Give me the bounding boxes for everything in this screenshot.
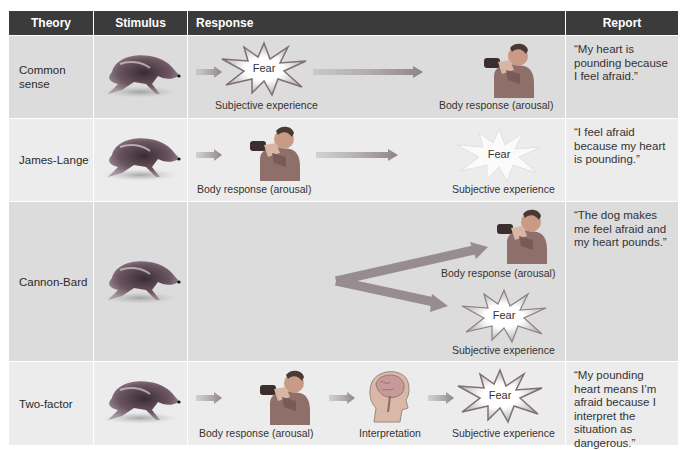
step-label: Body response (arousal) <box>199 427 313 439</box>
step-label: Body response (arousal) <box>441 267 555 279</box>
row-two-factor-stimulus <box>94 362 187 445</box>
arrow-icon <box>196 392 222 404</box>
fear-starburst-icon: Fear <box>462 290 546 342</box>
fear-starburst-icon: Fear <box>458 370 542 422</box>
arousal-man-icon <box>256 367 314 427</box>
step-label: Body response (arousal) <box>439 99 553 111</box>
emotion-theories-table: Theory Stimulus Response Report Common s… <box>9 11 678 445</box>
arrow-icon <box>313 66 423 78</box>
header-response: Response <box>188 11 565 35</box>
brain-head-icon <box>368 368 410 424</box>
arrow-icon <box>428 392 454 404</box>
running-dog-icon <box>100 48 184 100</box>
arousal-man-icon <box>480 40 538 100</box>
header-theory: Theory <box>9 11 93 35</box>
row-common-sense-response: Fear Subjective experience Body response… <box>188 36 565 118</box>
row-two-factor-report: “My pounding heart means I’m afraid beca… <box>566 362 678 445</box>
header-report: Report <box>566 11 678 35</box>
step-label: Subjective experience <box>452 427 555 439</box>
step-label: Interpretation <box>359 427 421 439</box>
row-cannon-bard-response: Body response (arousal) Fear Subjective … <box>188 202 565 361</box>
row-two-factor-response: Body response (arousal) Interpretation F… <box>188 362 565 445</box>
svg-text:Fear: Fear <box>489 389 512 401</box>
theory-label: Cannon-Bard <box>19 275 87 289</box>
row-james-lange-stimulus <box>94 119 187 201</box>
row-common-sense-theory: Common sense <box>9 36 93 118</box>
arousal-man-icon <box>493 206 551 266</box>
theory-label: James-Lange <box>19 153 89 167</box>
step-label: Subjective experience <box>215 99 318 111</box>
row-common-sense-report: “My heart is pounding because I feel afr… <box>566 36 678 118</box>
running-dog-icon <box>100 374 184 426</box>
fear-starburst-icon: Fear <box>457 129 541 181</box>
svg-text:Fear: Fear <box>488 148 511 160</box>
arrow-icon <box>329 392 355 404</box>
fear-starburst-icon: Fear <box>222 43 306 95</box>
arousal-man-icon <box>246 123 304 183</box>
running-dog-icon <box>100 131 184 183</box>
header-stimulus: Stimulus <box>94 11 187 35</box>
arrow-icon <box>196 66 222 78</box>
row-cannon-bard-stimulus <box>94 202 187 361</box>
step-label: Subjective experience <box>452 183 555 195</box>
row-common-sense-stimulus <box>94 36 187 118</box>
row-james-lange-report: “I feel afraid because my heart is pound… <box>566 119 678 201</box>
row-james-lange-response: Body response (arousal) Fear Subjective … <box>188 119 565 201</box>
step-label: Body response (arousal) <box>197 183 311 195</box>
step-label: Subjective experience <box>452 344 555 356</box>
running-dog-icon <box>100 254 184 306</box>
theory-label: Two-factor <box>19 397 73 411</box>
arrow-icon <box>196 149 222 161</box>
arrow-icon <box>316 149 398 161</box>
svg-text:Fear: Fear <box>493 309 516 321</box>
svg-text:Fear: Fear <box>253 62 276 74</box>
row-james-lange-theory: James-Lange <box>9 119 93 201</box>
row-cannon-bard-report: “The dog makes me feel afraid and my hea… <box>566 202 678 361</box>
theory-label: Common sense <box>19 63 79 91</box>
row-cannon-bard-theory: Cannon-Bard <box>9 202 93 361</box>
row-two-factor-theory: Two-factor <box>9 362 93 445</box>
